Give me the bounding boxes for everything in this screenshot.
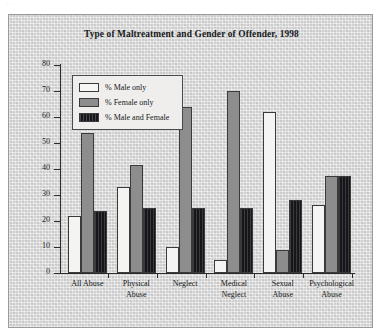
page-top-cutoff-text: · · · — [0, 0, 381, 10]
x-tick-mark — [108, 274, 109, 278]
x-tick-mark — [206, 274, 207, 278]
bar — [117, 187, 130, 273]
x-category-label: PsychologicalAbuse — [296, 279, 368, 300]
x-category-label-line: Abuse — [296, 290, 368, 301]
bar — [240, 208, 253, 273]
bar — [289, 200, 302, 273]
y-tick-mark — [54, 91, 60, 92]
y-tick-label: 40 — [24, 163, 50, 172]
y-tick-label: 0 — [24, 267, 50, 276]
bar — [68, 216, 81, 273]
bar — [312, 205, 325, 273]
bar — [338, 176, 351, 274]
chart-plate: Type of Maltreatment and Gender of Offen… — [8, 14, 373, 328]
chart-legend: % Male only% Female only% Male and Femal… — [72, 75, 183, 130]
x-category-label-line: Psychological — [296, 279, 368, 290]
bar — [179, 107, 192, 273]
bar — [263, 112, 276, 273]
x-category-label-line: Abuse — [100, 290, 172, 301]
y-tick-label: 60 — [24, 111, 50, 120]
legend-swatch-male_and_female — [79, 113, 99, 122]
legend-item: % Male and Female — [79, 111, 176, 124]
bar-group — [214, 65, 253, 273]
legend-swatch-male_only — [79, 83, 99, 92]
x-tick-mark — [352, 274, 353, 278]
bar — [94, 211, 107, 273]
legend-item: % Female only — [79, 96, 176, 109]
y-tick-mark — [54, 273, 60, 274]
y-tick-mark — [54, 195, 60, 196]
bar-group — [312, 65, 351, 273]
y-tick-label: 70 — [24, 85, 50, 94]
y-tick-label: 20 — [24, 215, 50, 224]
y-tick-label: 10 — [24, 241, 50, 250]
bar-group — [263, 65, 302, 273]
legend-label: % Male and Female — [105, 113, 169, 122]
legend-label: % Male only — [105, 83, 146, 92]
x-axis-line — [60, 273, 355, 274]
y-tick-mark — [54, 143, 60, 144]
y-tick-label: 50 — [24, 137, 50, 146]
y-tick-mark — [54, 65, 60, 66]
y-tick-mark — [54, 117, 60, 118]
y-tick-label: 80 — [24, 59, 50, 68]
y-tick-mark — [54, 221, 60, 222]
x-tick-mark — [254, 274, 255, 278]
bar — [214, 260, 227, 273]
bar — [143, 208, 156, 273]
y-tick-label: 30 — [24, 189, 50, 198]
legend-label: % Female only — [105, 98, 153, 107]
bar — [192, 208, 205, 273]
x-tick-mark — [303, 274, 304, 278]
y-tick-mark — [54, 169, 60, 170]
bar — [276, 250, 289, 273]
bar — [325, 176, 338, 274]
legend-item: % Male only — [79, 81, 176, 94]
figure-page: · · · Type of Maltreatment and Gender of… — [0, 0, 381, 336]
bar — [81, 133, 94, 273]
bar — [227, 91, 240, 273]
chart-title: Type of Maltreatment and Gender of Offen… — [9, 29, 374, 39]
bar — [130, 165, 143, 273]
x-tick-mark — [157, 274, 158, 278]
legend-swatch-female_only — [79, 98, 99, 107]
bar — [166, 247, 179, 273]
y-tick-mark — [54, 247, 60, 248]
